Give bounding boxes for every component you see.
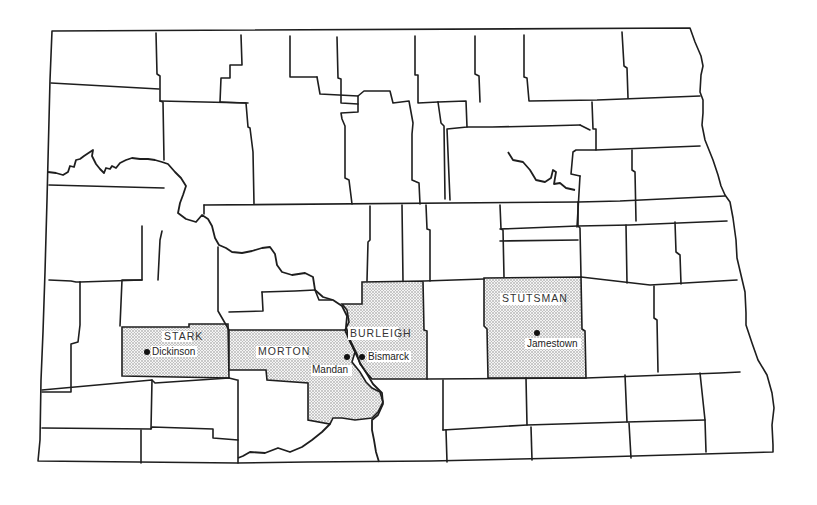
county-boundaries — [42, 32, 740, 463]
state-outline — [38, 28, 774, 463]
sheyenne-river — [508, 152, 575, 190]
label-burleigh: BURLEIGH — [350, 327, 412, 339]
north-dakota-county-map: STARK Dickinson MORTON Mandan BURLEIGH B… — [0, 0, 817, 505]
label-dickinson: Dickinson — [152, 346, 195, 357]
label-mandan: Mandan — [312, 364, 348, 375]
city-dot-bismarck — [359, 354, 365, 360]
label-jamestown: Jamestown — [527, 338, 578, 349]
city-dot-jamestown — [534, 330, 540, 336]
city-dot-mandan — [344, 354, 350, 360]
city-dot-dickinson — [144, 349, 150, 355]
cannonball-river — [238, 424, 330, 458]
label-stark: STARK — [164, 330, 203, 342]
label-bismarck: Bismarck — [368, 351, 410, 362]
label-morton: MORTON — [258, 345, 310, 357]
label-stutsman: STUTSMAN — [502, 292, 568, 304]
